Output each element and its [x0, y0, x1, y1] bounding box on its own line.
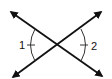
angle-1-label: 1 [19, 39, 25, 51]
diagram-svg: 1 2 [0, 0, 112, 79]
vertical-angles-diagram: 1 2 [0, 0, 112, 79]
angle-2-label: 2 [91, 40, 97, 52]
